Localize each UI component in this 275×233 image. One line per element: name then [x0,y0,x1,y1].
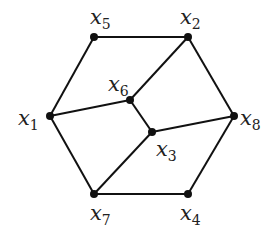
label-x8: x8 [240,106,261,133]
label-x2: x2 [180,5,201,32]
label-x1: x1 [18,106,39,133]
label-x5: x5 [90,5,111,32]
graph-svg: x1x2x3x4x5x6x7x8 [0,0,275,233]
edge-x7-x1 [50,116,94,194]
edge-x3-x8 [152,116,234,132]
node-x2 [184,33,192,41]
edge-x3-x7 [94,132,152,194]
edge-x6-x3 [130,100,152,132]
edge-x1-x5 [50,37,94,116]
label-x3: x3 [156,137,177,164]
label-x6: x6 [108,72,129,99]
edge-x8-x4 [188,116,234,194]
nodes-group [46,33,238,198]
node-x5 [90,33,98,41]
edges-group [50,37,234,194]
graph-diagram: x1x2x3x4x5x6x7x8 [0,0,275,233]
node-x8 [230,112,238,120]
edge-x6-x2 [130,37,188,100]
node-x7 [90,190,98,198]
node-x1 [46,112,54,120]
node-x3 [148,128,156,136]
edge-x2-x8 [188,37,234,116]
label-x4: x4 [180,201,201,228]
node-x4 [184,190,192,198]
edge-x1-x6 [50,100,130,116]
label-x7: x7 [90,201,111,228]
